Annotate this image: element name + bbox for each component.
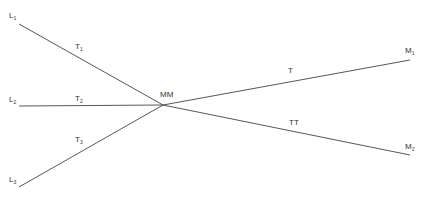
edge-t2-label: T2 (75, 95, 83, 104)
edge-tt (163, 105, 410, 155)
node-m1-label: M1 (405, 47, 414, 56)
figure-caption (185, 194, 245, 197)
node-m2-label: M2 (405, 143, 414, 152)
node-mm-label: MM (160, 91, 173, 99)
edge-t-label: T (288, 67, 293, 75)
node-l3-label: L3 (9, 176, 16, 185)
edge-t1 (19, 24, 163, 105)
node-l2-label: L2 (9, 96, 16, 105)
node-l1-label: L1 (9, 12, 16, 21)
diagram-canvas (0, 0, 424, 202)
edge-t3 (19, 105, 163, 187)
edge-t2 (19, 105, 163, 106)
edge-tt-label: TT (289, 119, 299, 127)
edge-t (163, 60, 410, 105)
edge-t3-label: T3 (75, 136, 83, 145)
edge-t1-label: T1 (75, 43, 83, 52)
